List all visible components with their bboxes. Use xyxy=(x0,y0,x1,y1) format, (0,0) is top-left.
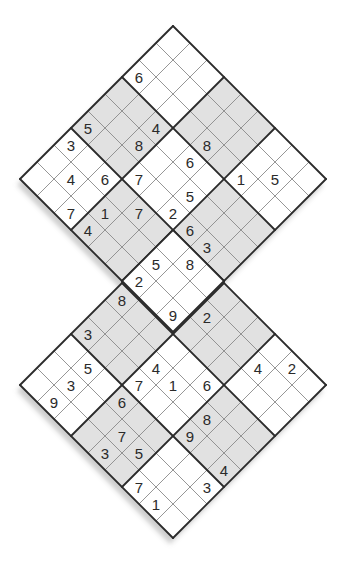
given-digit: 7 xyxy=(135,205,143,222)
given-digit: 3 xyxy=(84,326,92,343)
given-digit: 5 xyxy=(84,120,92,137)
given-digit: 6 xyxy=(118,394,126,411)
given-digit: 6 xyxy=(135,69,143,86)
given-digit: 1 xyxy=(152,496,160,513)
given-digit: 1 xyxy=(237,171,245,188)
given-digit: 7 xyxy=(135,377,143,394)
given-digit: 6 xyxy=(186,222,194,239)
given-digit: 3 xyxy=(203,479,211,496)
given-digit: 9 xyxy=(169,307,177,324)
given-digit: 3 xyxy=(67,377,75,394)
given-digit: 4 xyxy=(254,360,262,377)
grids: 5681468557263367841574292248641837945633… xyxy=(20,26,326,538)
given-digit: 3 xyxy=(203,239,211,256)
given-digit: 1 xyxy=(101,205,109,222)
given-digit: 5 xyxy=(135,445,143,462)
given-digit: 5 xyxy=(84,360,92,377)
given-digit: 8 xyxy=(186,256,194,273)
given-digit: 6 xyxy=(101,171,109,188)
given-digit: 7 xyxy=(67,205,75,222)
given-digit: 8 xyxy=(203,137,211,154)
given-digit: 5 xyxy=(186,188,194,205)
given-digit: 5 xyxy=(152,256,160,273)
given-digit: 6 xyxy=(203,377,211,394)
given-digit: 4 xyxy=(220,462,228,479)
given-digit: 7 xyxy=(118,428,126,445)
given-digit: 9 xyxy=(186,428,194,445)
given-digit: 1 xyxy=(169,377,177,394)
given-digit: 9 xyxy=(50,394,58,411)
given-digit: 7 xyxy=(135,479,143,496)
given-digit: 2 xyxy=(203,309,211,326)
given-digit: 4 xyxy=(67,171,75,188)
given-digit: 4 xyxy=(152,360,160,377)
sudoku-board: 5681468557263367841574292248641837945633… xyxy=(0,0,355,567)
given-digit: 8 xyxy=(135,137,143,154)
given-digit: 3 xyxy=(101,445,109,462)
given-digit: 7 xyxy=(135,171,143,188)
given-digit: 5 xyxy=(271,171,279,188)
given-digit: 6 xyxy=(186,154,194,171)
given-digit: 3 xyxy=(67,137,75,154)
given-digit: 2 xyxy=(135,273,143,290)
given-digit: 8 xyxy=(203,411,211,428)
given-digit: 4 xyxy=(84,222,92,239)
given-digit: 2 xyxy=(169,205,177,222)
given-digit: 8 xyxy=(118,292,126,309)
given-digit: 2 xyxy=(288,360,296,377)
given-digit: 4 xyxy=(152,120,160,137)
